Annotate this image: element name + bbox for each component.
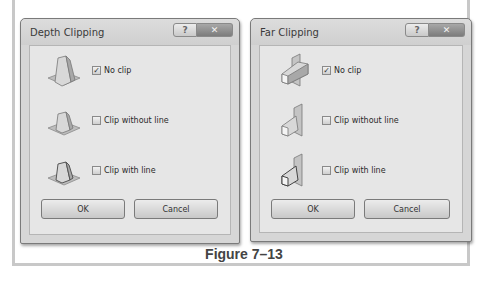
dialog-title: Depth Clipping — [30, 27, 104, 38]
checkbox-label: Clip without line — [334, 116, 399, 125]
checkbox-label: No clip — [104, 66, 131, 75]
close-button[interactable]: ✕ — [197, 23, 233, 37]
figure-caption: Figure 7–13 — [0, 246, 488, 262]
title-bar: Depth Clipping ? ✕ — [21, 19, 239, 45]
checkbox-label: No clip — [334, 66, 361, 75]
checkbox-box[interactable]: ✓ — [322, 66, 331, 75]
close-button[interactable]: ✕ — [429, 23, 465, 37]
ok-button[interactable]: OK — [41, 199, 125, 219]
depth-clipping-dialog: Depth Clipping ? ✕ ✓ No clip — [20, 18, 240, 244]
help-button[interactable]: ? — [173, 23, 197, 37]
checkbox-label: Clip with line — [334, 166, 386, 175]
option-row-clip-without-line: Clip without line — [30, 102, 230, 142]
cancel-button[interactable]: Cancel — [364, 199, 450, 219]
title-bar: Far Clipping ? ✕ — [251, 19, 471, 45]
far-clip-with-line-icon — [274, 152, 314, 192]
depth-no-clip-icon — [44, 52, 84, 92]
help-button[interactable]: ? — [405, 23, 429, 37]
option-row-clip-with-line: Clip with line — [30, 152, 230, 192]
checkbox-box[interactable] — [322, 116, 331, 125]
depth-clip-without-line-icon — [44, 102, 84, 142]
checkbox-box[interactable]: ✓ — [92, 66, 101, 75]
option-row-clip-with-line: Clip with line — [260, 152, 462, 192]
depth-clip-with-line-icon — [44, 152, 84, 192]
no-clip-checkbox[interactable]: ✓ No clip — [322, 66, 361, 75]
ok-button[interactable]: OK — [271, 199, 355, 219]
dialog-title: Far Clipping — [260, 27, 319, 38]
far-clip-without-line-icon — [274, 102, 314, 142]
checkbox-label: Clip without line — [104, 116, 169, 125]
clip-without-line-checkbox[interactable]: Clip without line — [322, 116, 399, 125]
option-row-no-clip: ✓ No clip — [260, 52, 462, 92]
option-row-clip-without-line: Clip without line — [260, 102, 462, 142]
clip-with-line-checkbox[interactable]: Clip with line — [322, 166, 386, 175]
clip-without-line-checkbox[interactable]: Clip without line — [92, 116, 169, 125]
checkbox-label: Clip with line — [104, 166, 156, 175]
option-row-no-clip: ✓ No clip — [30, 52, 230, 92]
no-clip-checkbox[interactable]: ✓ No clip — [92, 66, 131, 75]
checkbox-box[interactable] — [92, 166, 101, 175]
far-clipping-dialog: Far Clipping ? ✕ ✓ No clip — [250, 18, 472, 242]
cancel-button[interactable]: Cancel — [134, 199, 218, 219]
checkbox-box[interactable] — [322, 166, 331, 175]
clip-with-line-checkbox[interactable]: Clip with line — [92, 166, 156, 175]
far-no-clip-icon — [274, 52, 314, 92]
checkbox-box[interactable] — [92, 116, 101, 125]
